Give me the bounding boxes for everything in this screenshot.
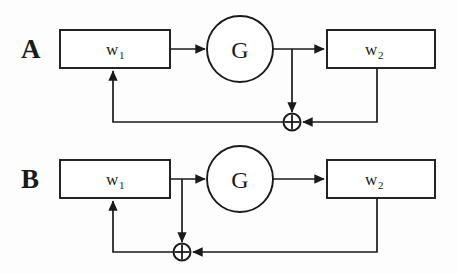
panel-b-block-w1-label: w (106, 170, 119, 189)
panel-b-label: B (21, 164, 39, 194)
panel-a-block-g-label: G (231, 37, 248, 63)
panel-a-wire-w2-feedback-to-sum (303, 68, 377, 122)
panel-a-block-w1-label: w (106, 40, 119, 59)
panel-b-block-w1-subscript: 1 (119, 179, 125, 191)
panel-a-block-w2-subscript: 2 (378, 49, 384, 61)
panel-a: A w 1 G w 2 (21, 16, 435, 131)
panel-b-block-w2-label: w (365, 170, 378, 189)
panel-a-block-w2-label: w (365, 40, 378, 59)
panel-a-label: A (21, 34, 41, 64)
figure-container: A w 1 G w 2 (0, 0, 457, 274)
panel-a-wire-sum-to-w1 (113, 71, 283, 122)
panel-b-block-w2-subscript: 2 (378, 179, 384, 191)
panel-b: B w 1 G w 2 (21, 146, 435, 261)
panel-b-wire-sum-to-w1 (113, 201, 173, 252)
panel-a-block-w1-subscript: 1 (119, 49, 125, 61)
block-diagram-svg: A w 1 G w 2 (0, 0, 457, 274)
panel-b-block-g-label: G (231, 167, 248, 193)
